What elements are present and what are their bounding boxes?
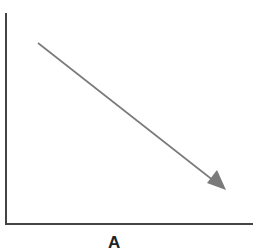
arrowhead-icon — [207, 170, 226, 190]
trend-arrow-line — [38, 43, 214, 181]
x-axis-label: A — [108, 234, 120, 251]
